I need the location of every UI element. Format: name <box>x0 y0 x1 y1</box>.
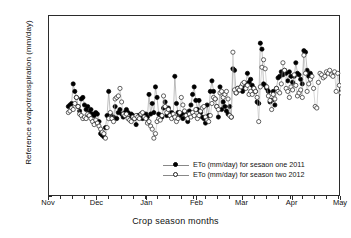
data-point <box>108 110 112 114</box>
data-point <box>266 89 270 93</box>
data-point <box>179 95 183 99</box>
data-point <box>334 89 338 93</box>
data-point <box>223 104 227 108</box>
x-tick-label: Feb <box>176 199 216 207</box>
data-point <box>107 89 111 93</box>
data-point <box>231 50 235 54</box>
data-point <box>253 89 257 93</box>
data-point <box>150 101 154 105</box>
data-point <box>113 104 117 108</box>
data-point <box>116 94 120 98</box>
data-point <box>71 107 75 111</box>
data-point <box>282 68 286 72</box>
data-point <box>245 71 249 75</box>
data-point <box>263 67 267 71</box>
data-point <box>76 104 80 108</box>
data-point <box>328 68 332 72</box>
data-point <box>124 112 128 116</box>
data-point <box>190 92 194 96</box>
data-point <box>268 98 272 102</box>
data-point <box>258 85 262 89</box>
open-circle-icon <box>163 170 189 180</box>
x-minor-tick-mark <box>266 196 267 199</box>
data-point <box>226 97 230 101</box>
data-point <box>260 47 264 51</box>
data-point <box>266 94 270 98</box>
chart-legend: ETo (mm/day) for sesaon one 2011 ETo (mm… <box>163 160 305 180</box>
data-point <box>271 92 275 96</box>
data-point <box>218 85 222 89</box>
data-point <box>273 103 277 107</box>
data-point <box>161 94 165 98</box>
data-point <box>160 113 164 117</box>
x-minor-tick-mark <box>121 196 122 199</box>
data-point <box>118 86 122 90</box>
data-point <box>229 115 233 119</box>
data-point <box>153 85 157 89</box>
data-point <box>118 107 122 111</box>
data-point <box>216 107 220 111</box>
data-point <box>120 100 124 104</box>
data-point <box>216 115 220 119</box>
data-point <box>287 95 291 99</box>
legend-label-season-two: ETo (mm/day) for season two 2012 <box>189 170 304 180</box>
data-point <box>152 110 156 114</box>
data-point <box>303 71 307 75</box>
data-point <box>95 112 99 116</box>
data-point <box>182 109 186 113</box>
data-point <box>294 61 298 65</box>
data-point <box>153 132 157 136</box>
data-point <box>147 92 151 96</box>
data-point <box>210 79 214 83</box>
data-point <box>331 74 335 78</box>
data-point <box>208 113 212 117</box>
x-tick-label: Nov <box>28 199 68 207</box>
legend-item-season-one: ETo (mm/day) for sesaon one 2011 <box>163 160 305 170</box>
data-point <box>147 119 151 123</box>
x-tick-label: Mar <box>222 199 262 207</box>
data-point <box>299 88 303 92</box>
data-point <box>137 116 141 120</box>
legend-item-season-two: ETo (mm/day) for season two 2012 <box>163 170 305 180</box>
data-point <box>152 136 156 140</box>
data-point <box>176 116 180 120</box>
data-point <box>273 97 277 101</box>
data-point <box>189 103 193 107</box>
data-point <box>261 58 265 62</box>
data-point <box>307 82 311 86</box>
data-point <box>286 79 290 83</box>
data-point <box>134 123 138 127</box>
x-tick-label: Apr <box>272 199 312 207</box>
data-point <box>224 89 228 93</box>
data-point <box>279 82 283 86</box>
data-point <box>337 83 341 87</box>
data-point <box>278 91 282 95</box>
chart-figure: Reference evapotranspiration (mm/day) 0.… <box>0 0 351 238</box>
data-point <box>292 73 296 77</box>
data-point <box>297 73 301 77</box>
data-point <box>315 106 319 110</box>
data-point <box>311 86 315 90</box>
x-tick-label: Jan <box>126 199 166 207</box>
data-point <box>163 100 167 104</box>
data-point <box>287 70 291 74</box>
data-point <box>211 89 215 93</box>
x-minor-tick-mark <box>72 196 73 199</box>
data-point <box>74 95 78 99</box>
x-minor-tick-mark <box>217 196 218 199</box>
x-tick-label: May <box>320 199 351 207</box>
data-point <box>150 127 154 131</box>
x-tick-label: Dec <box>76 199 116 207</box>
data-point <box>207 119 211 123</box>
data-point <box>302 53 306 57</box>
data-point <box>103 136 107 140</box>
data-point <box>291 88 295 92</box>
x-minor-tick-mark <box>169 196 170 199</box>
data-point <box>158 118 162 122</box>
data-point <box>245 83 249 87</box>
data-point <box>270 107 274 111</box>
data-point <box>202 104 206 108</box>
data-point <box>155 95 159 99</box>
data-point <box>228 104 232 108</box>
data-point <box>336 71 340 75</box>
